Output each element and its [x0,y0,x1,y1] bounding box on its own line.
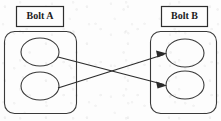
label-text-bolt-a: Bolt A [16,11,64,21]
group-bolt-b [151,7,217,114]
arrowhead-icon-a2-to-b1 [156,51,167,58]
diagram-canvas: Bolt A Bolt B [0,0,221,121]
label-text-bolt-b: Bolt B [161,11,208,21]
arrowhead-icon-a1-to-b2 [156,82,167,89]
node-bolt-a-2 [21,72,59,100]
container-bolt-b [151,32,217,114]
group-bolt-a [5,7,77,114]
node-bolt-a-1 [21,38,59,66]
node-bolt-b-2 [166,71,204,99]
node-bolt-b-1 [166,39,204,67]
connector-line-a2-to-b1 [58,55,164,89]
